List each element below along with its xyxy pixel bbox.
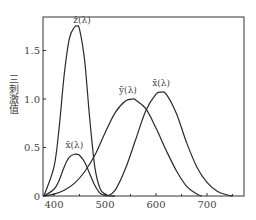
curve-label: ȳ(λ) xyxy=(118,85,137,95)
axis-ticks: 40050060070000.51.01.5 xyxy=(24,45,232,210)
y-tick-label: 1.5 xyxy=(24,45,40,56)
x-tick-label: 700 xyxy=(197,199,216,210)
curve-label: x̄(λ) xyxy=(65,140,83,150)
y-tick-label: 1.0 xyxy=(24,94,40,105)
x-tick-label: 600 xyxy=(146,199,165,210)
curve-line xyxy=(108,92,233,196)
x-tick-label: 500 xyxy=(95,199,114,210)
y-tick-label: 0.5 xyxy=(24,142,40,153)
curve-label: x̄(λ) xyxy=(152,78,170,88)
y-tick-label: 0 xyxy=(34,191,40,202)
curves xyxy=(44,26,233,196)
x-tick-label: 400 xyxy=(44,199,63,210)
tristimulus-chart: 40050060070000.51.01.5 z̄(λ)x̄(λ)ȳ(λ)x̄(… xyxy=(0,0,256,220)
curve-line xyxy=(44,26,115,196)
curve-line xyxy=(44,154,108,196)
curve-label: z̄(λ) xyxy=(73,15,90,25)
